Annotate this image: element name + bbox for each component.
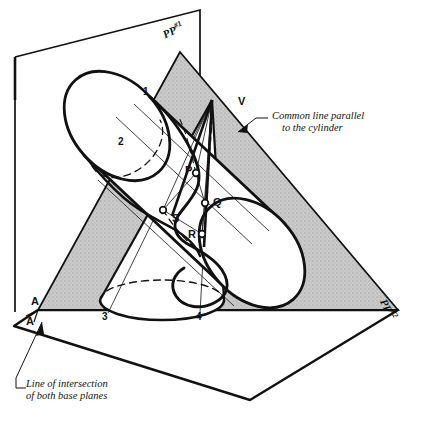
note-common-line-line1: Common line parallel <box>272 110 364 122</box>
point-label-3: 3 <box>102 311 108 323</box>
figure-canvas: PP#1 PP#2 Common line parallel to the cy… <box>0 0 440 422</box>
point-label-s: S <box>172 212 179 225</box>
note-common-line-line2: to the cylinder <box>272 122 364 134</box>
point-label-a-upper: A <box>31 295 39 308</box>
point-label-2: 2 <box>118 136 124 148</box>
note-intersection-line2: of both base planes <box>26 390 108 402</box>
note-intersection-line: Line of intersection of both base planes <box>26 378 108 403</box>
point-label-p: P <box>185 164 192 177</box>
point-label-a-lower: A <box>26 315 34 328</box>
note-intersection-line1: Line of intersection <box>26 378 108 390</box>
note-common-line: Common line parallel to the cylinder <box>272 110 364 135</box>
point-label-1: 1 <box>143 86 149 98</box>
figure-svg <box>0 0 440 422</box>
point-label-q: Q <box>213 196 222 209</box>
point-label-4: 4 <box>196 311 202 323</box>
point-label-v: V <box>238 95 245 108</box>
point-label-r: R <box>188 228 196 241</box>
